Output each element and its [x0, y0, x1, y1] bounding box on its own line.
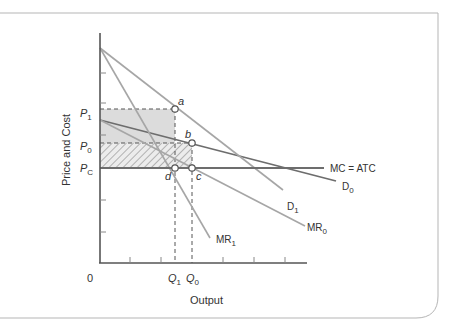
label-point-b: b — [185, 128, 191, 140]
label-p1: P1 — [80, 107, 92, 122]
label-mc-atc: MC = ATC — [330, 163, 376, 174]
origin-label: 0 — [87, 272, 93, 284]
y-axis-title: Price and Cost — [60, 114, 72, 186]
label-d0: D0 — [342, 181, 354, 195]
mr0-curve — [100, 120, 305, 226]
label-point-c: c — [196, 170, 202, 182]
point-d — [172, 165, 178, 171]
profit-rectangle-before — [100, 143, 192, 168]
label-q1: Q1 — [168, 272, 182, 287]
chart-figure: a b c d P1 P0 PC Q1 Q0 0 Output Price an… — [0, 0, 460, 331]
x-axis-title: Output — [190, 294, 223, 306]
label-mr1: MR1 — [216, 234, 237, 248]
label-pc: PC — [80, 162, 93, 177]
point-c — [189, 165, 195, 171]
label-point-a: a — [178, 95, 184, 107]
label-p0: P0 — [80, 140, 92, 155]
point-b — [189, 140, 195, 146]
label-q0: Q0 — [186, 272, 200, 287]
label-point-d: d — [165, 170, 172, 182]
label-mr0: MR0 — [307, 222, 328, 236]
label-d1: D1 — [287, 201, 299, 215]
